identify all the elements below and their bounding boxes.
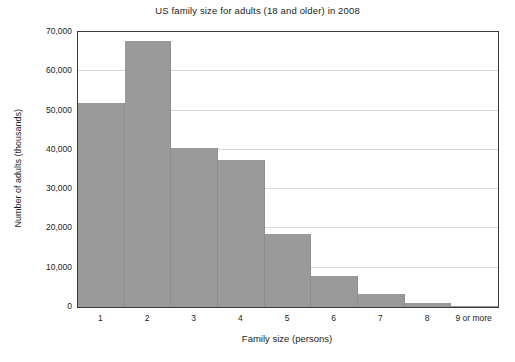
plot-area: [77, 31, 499, 308]
y-tick-label: 50,000: [46, 105, 72, 115]
bar: [358, 294, 405, 307]
x-tick-label: 1: [98, 313, 103, 323]
y-tick-label: 70,000: [46, 26, 72, 36]
bar: [125, 41, 172, 307]
chart-title: US family size for adults (18 and older)…: [0, 5, 515, 16]
y-axis-tick-labels: 010,00020,00030,00040,00050,00060,00070,…: [0, 31, 72, 306]
bar: [171, 148, 218, 307]
x-axis-tick-labels: 123456789 or more: [77, 313, 497, 327]
x-tick-label: 5: [285, 313, 290, 323]
x-tick-label: 6: [331, 313, 336, 323]
bar: [405, 303, 452, 307]
histogram-figure: US family size for adults (18 and older)…: [0, 0, 515, 362]
y-tick-label: 0: [67, 301, 72, 311]
y-tick-label: 30,000: [46, 183, 72, 193]
x-tick-label: 7: [378, 313, 383, 323]
x-tick-label: 4: [238, 313, 243, 323]
bar: [451, 306, 498, 307]
x-axis-title: Family size (persons): [77, 333, 497, 344]
bar: [311, 276, 358, 307]
x-tick-label: 8: [425, 313, 430, 323]
y-tick-label: 40,000: [46, 144, 72, 154]
bar: [218, 160, 265, 307]
y-tick-label: 60,000: [46, 65, 72, 75]
bars-layer: [78, 32, 498, 307]
x-tick-label: 9 or more: [455, 313, 491, 323]
bar: [265, 234, 312, 307]
x-tick-label: 2: [145, 313, 150, 323]
y-tick-label: 10,000: [46, 262, 72, 272]
bar: [78, 103, 125, 307]
x-tick-label: 3: [191, 313, 196, 323]
y-tick-label: 20,000: [46, 222, 72, 232]
